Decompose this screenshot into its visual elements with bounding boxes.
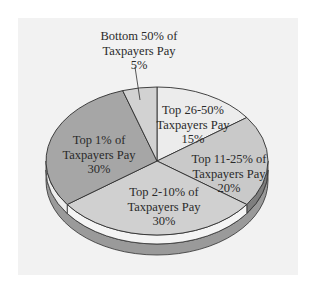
slice-label-4: Bottom 50% ofTaxpayers Pay5%	[100, 29, 178, 72]
pie-chart: Top 26-50%Taxpayers Pay15%Top 11-25% ofT…	[0, 0, 317, 290]
